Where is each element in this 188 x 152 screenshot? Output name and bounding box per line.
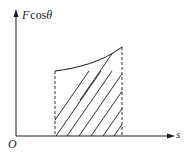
y-label-theta: θ: [46, 8, 52, 22]
hatched-area: [44, 25, 171, 136]
x-axis-arrow-icon: [167, 134, 175, 139]
y-label-cos: cos: [30, 8, 46, 22]
x-axis-label: s: [176, 129, 180, 140]
diagram-canvas: [0, 0, 188, 152]
y-axis-arrow-icon: [14, 9, 19, 17]
force-curve: [55, 47, 122, 71]
origin-label: O: [8, 138, 17, 150]
y-label-F: F: [22, 8, 29, 22]
y-axis-label: Fcosθ: [22, 9, 52, 21]
